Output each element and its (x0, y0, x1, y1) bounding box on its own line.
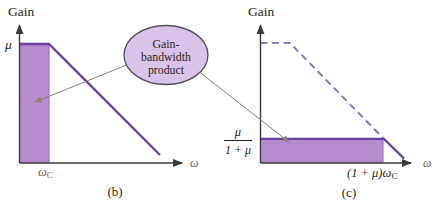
omega-c-subscript: C (47, 170, 53, 180)
callout-line-3: product (148, 63, 185, 77)
mu-tick-label-b: μ (4, 37, 12, 52)
omega-c-base: ω (38, 165, 47, 179)
y-axis-title-b: Gain (8, 4, 34, 19)
callout-arrow-right (200, 73, 289, 143)
closed-loop-rolloff-curve-c (383, 138, 404, 159)
caption-c: (c) (342, 185, 356, 200)
shaded-gain-bandwidth-area-b (20, 44, 50, 163)
figure-canvas: Gain μ ω ωC (b) Gain μ 1 + μ ω (0, 0, 438, 202)
fraction-denominator: 1 + μ (225, 143, 251, 157)
omega-axis-label-b: ω (190, 156, 198, 170)
y-axis-title-c: Gain (248, 4, 274, 19)
omega-c-tick-label-b: ωC (38, 165, 53, 180)
omega-axis-label-c: ω (423, 156, 431, 170)
gain-bandwidth-callout: Gain- bandwidth product (124, 26, 208, 85)
caption-b: (b) (107, 184, 122, 199)
one-plus-mu-omega-c-tick-label: (1 + μ)ωC (347, 166, 397, 181)
callout-line-1: Gain- (153, 37, 180, 51)
fraction-numerator: μ (234, 125, 241, 139)
gain-bandwidth-figure: Gain μ ω ωC (b) Gain μ 1 + μ ω (0, 0, 438, 202)
tick-main: (1 + μ)ω (347, 166, 392, 180)
plot-c: Gain μ 1 + μ ω (1 + μ)ωC (c) (224, 4, 431, 200)
tick-subscript: C (391, 171, 397, 181)
open-loop-response-dashed-curve-c (261, 43, 384, 138)
shaded-gain-bandwidth-area-c (261, 138, 384, 163)
callout-line-2: bandwidth (141, 50, 191, 64)
fraction-tick-label-c: μ 1 + μ (224, 125, 252, 157)
